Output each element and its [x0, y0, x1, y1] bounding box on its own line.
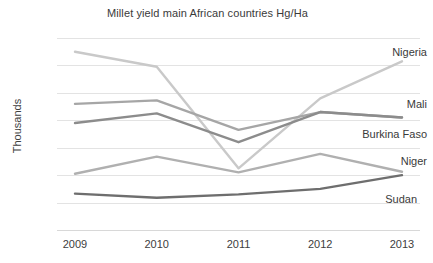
y-axis-label: Thousands [11, 76, 23, 176]
series-label-burkina-faso: Burkina Faso [362, 128, 427, 140]
gridline [57, 230, 420, 231]
series-label-nigeria: Nigeria [392, 46, 427, 58]
x-axis-tick-label: 2013 [372, 238, 432, 250]
x-axis-tick-label: 2010 [127, 238, 187, 250]
series-line-nigeria [75, 52, 402, 169]
series-label-mali: Mali [407, 98, 427, 110]
series-label-niger: Niger [401, 155, 427, 167]
line-chart: Millet yield main African countries Hg/H… [0, 0, 433, 263]
series-line-sudan [75, 175, 402, 198]
chart-title-text: Millet yield main African countries Hg/H… [107, 7, 308, 19]
series-label-sudan: Sudan [385, 193, 417, 205]
chart-title: Millet yield main African countries Hg/H… [0, 7, 433, 19]
series-line-niger [75, 154, 402, 174]
series-line-burkina-faso [75, 112, 402, 142]
x-axis-tick-label: 2009 [45, 238, 105, 250]
x-axis-tick-label: 2012 [290, 238, 350, 250]
x-axis-tick-label: 2011 [209, 238, 269, 250]
